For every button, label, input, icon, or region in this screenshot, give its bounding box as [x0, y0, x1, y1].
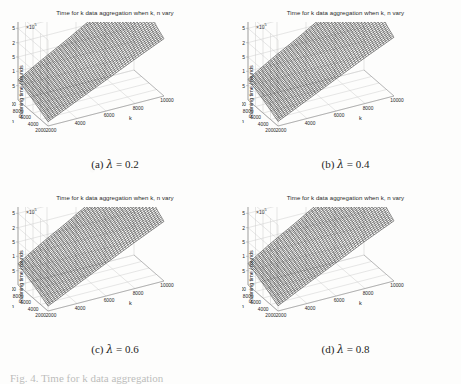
n-tick-label: 2000	[35, 128, 46, 133]
subplot-panel-c: Time for k data aggregation when k, n va…	[0, 185, 230, 378]
plot-title: Time for k data aggregation when k, n va…	[0, 194, 230, 201]
y-tick-label: 1	[12, 68, 15, 74]
k-tick-label: 4000	[75, 121, 86, 126]
y-axis-exponent: ×105	[256, 208, 267, 215]
y-axis-exponent-power: 5	[34, 23, 36, 27]
caption-lambda-value: = 0.4	[347, 158, 370, 170]
y-tick-label: 1	[242, 253, 245, 259]
n-tick-label: 4000	[258, 122, 269, 127]
caption-index: (d)	[321, 343, 334, 355]
caption-lambda-value: = 0.8	[347, 343, 370, 355]
y-tick-label: 2	[12, 225, 15, 231]
plot-title: Time for k data aggregation when k, n va…	[230, 194, 461, 201]
y-axis-exponent: ×105	[26, 208, 37, 215]
caption-lambda-symbol: λ	[106, 343, 113, 356]
k-tick-label: 2000	[46, 128, 57, 133]
caption-lambda-value: = 0.6	[116, 343, 139, 355]
caption-lambda-value: = 0.2	[116, 158, 139, 170]
k-tick-label: 8000	[363, 106, 374, 111]
y-tick-label: 1.5	[242, 239, 245, 245]
n-tick-label: 4000	[258, 307, 269, 312]
k-tick-label: 6000	[334, 113, 345, 118]
k-tick-label: 8000	[133, 291, 144, 296]
n-tick-label: 10000	[12, 102, 16, 107]
subplot-caption: (b) λ = 0.4	[230, 158, 461, 171]
plot-axes-area: 0.511.522.532000400060008000100001000080…	[242, 207, 448, 335]
depth-axis-label: n	[12, 118, 14, 124]
n-tick-label: 10000	[242, 287, 246, 292]
k-tick-label: 4000	[305, 121, 316, 126]
k-tick-label: 10000	[390, 283, 404, 288]
depth-axis-label: n	[242, 303, 244, 309]
caption-lambda-symbol: λ	[106, 158, 113, 171]
x-axis-label: k	[129, 115, 132, 121]
y-tick-label: 2.5	[242, 210, 245, 216]
x-axis-label: k	[359, 300, 362, 306]
plot-axes-area: 0.511.522.532000400060008000100001000080…	[12, 22, 218, 150]
k-tick-label: 6000	[104, 113, 115, 118]
y-axis-label: Running time / rounds	[248, 250, 254, 303]
y-tick-label: 2	[12, 40, 15, 46]
x-axis-label: k	[359, 115, 362, 121]
subplot-panel-b: Time for k data aggregation when k, n va…	[230, 0, 461, 185]
caption-lambda-symbol: λ	[337, 343, 344, 356]
k-tick-label: 2000	[276, 128, 287, 133]
n-tick-label: 2000	[35, 313, 46, 318]
n-tick-label: 2000	[265, 313, 276, 318]
y-tick-label: 0.5	[12, 268, 15, 274]
plot-axes-area: 0.511.522.532000400060008000100001000080…	[12, 207, 218, 335]
y-tick-label: 2.5	[242, 25, 245, 31]
y-axis-exponent-power: 5	[264, 208, 266, 212]
y-axis-exponent-power: 5	[34, 208, 36, 212]
plot-axes-area: 0.511.522.532000400060008000100001000080…	[242, 22, 448, 150]
k-tick-label: 8000	[363, 291, 374, 296]
caption-index: (c)	[91, 343, 103, 355]
k-tick-label: 8000	[133, 106, 144, 111]
plot-title: Time for k data aggregation when k, n va…	[230, 9, 461, 16]
plot-title: Time for k data aggregation when k, n va…	[0, 9, 230, 16]
caption-index: (b)	[321, 158, 334, 170]
subplot-panel-a: Time for k data aggregation when k, n va…	[0, 0, 230, 185]
y-tick-label: 1	[242, 68, 245, 74]
subplot-caption: (a) λ = 0.2	[0, 158, 230, 171]
depth-axis-label: n	[242, 118, 244, 124]
depth-axis-label: n	[12, 303, 14, 309]
k-tick-label: 6000	[104, 298, 115, 303]
subplot-panel-d: Time for k data aggregation when k, n va…	[230, 185, 461, 378]
n-tick-label: 10000	[12, 287, 16, 292]
y-tick-label: 2	[242, 225, 245, 231]
x-axis-label: k	[129, 300, 132, 306]
y-tick-label: 0.5	[242, 268, 245, 274]
y-axis-exponent-power: 5	[264, 23, 266, 27]
caption-lambda-symbol: λ	[337, 158, 344, 171]
y-axis-exponent: ×105	[256, 23, 267, 30]
y-axis-label: Running time / rounds	[18, 65, 24, 118]
n-tick-label: 4000	[28, 307, 39, 312]
figure-caption-clipped: Fig. 4. Time for k data aggregation	[10, 372, 163, 384]
caption-index: (a)	[91, 158, 103, 170]
y-tick-label: 0.5	[12, 83, 15, 89]
k-tick-label: 2000	[46, 313, 57, 318]
k-tick-label: 6000	[334, 298, 345, 303]
k-tick-label: 10000	[390, 98, 404, 103]
subplot-caption: (d) λ = 0.8	[230, 343, 461, 356]
y-tick-label: 2.5	[12, 210, 15, 216]
subplot-caption: (c) λ = 0.6	[0, 343, 230, 356]
y-tick-label: 2.5	[12, 25, 15, 31]
y-axis-label: Running time / rounds	[248, 65, 254, 118]
y-axis-label: Running time / rounds	[18, 250, 24, 303]
k-tick-label: 10000	[160, 98, 174, 103]
y-tick-label: 1.5	[242, 54, 245, 60]
k-tick-label: 4000	[75, 306, 86, 311]
y-tick-label: 1.5	[12, 239, 15, 245]
n-tick-label: 4000	[28, 122, 39, 127]
axis-tick-labels: 0.511.522.532000400060008000100001000080…	[242, 207, 404, 318]
k-tick-label: 10000	[160, 283, 174, 288]
k-tick-label: 4000	[305, 306, 316, 311]
n-tick-label: 2000	[265, 128, 276, 133]
y-tick-label: 1	[12, 253, 15, 259]
n-tick-label: 10000	[242, 102, 246, 107]
k-tick-label: 2000	[276, 313, 287, 318]
y-tick-label: 0.5	[242, 83, 245, 89]
